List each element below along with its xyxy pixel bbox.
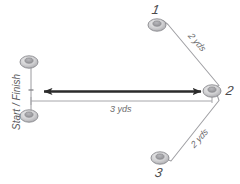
drill-diagram: 1 2 3 Start / Finish 2 yds 2 yds 3 yds: [0, 0, 240, 184]
cone-marker-3: [151, 152, 169, 164]
start-finish-extension-line: [29, 62, 34, 116]
diagram-canvas: [0, 0, 240, 184]
distance-label-main: 3 yds: [110, 105, 132, 114]
leg-one-to-two-line: [163, 21, 219, 89]
cone-marker-2: [203, 85, 221, 97]
cone-marker-start-bottom: [20, 110, 38, 122]
cone-marker-1: [148, 19, 166, 31]
cone-marker-start-top: [20, 56, 38, 68]
start-finish-label: Start / Finish: [12, 74, 22, 130]
leg-two-to-three-line: [165, 96, 219, 161]
